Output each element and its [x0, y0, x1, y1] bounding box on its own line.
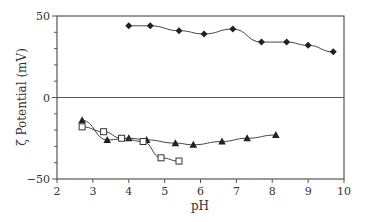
- data-point: [101, 129, 107, 135]
- data-point: [119, 135, 125, 141]
- data-point: [140, 139, 146, 145]
- data-point: [305, 42, 312, 49]
- data-point: [175, 27, 182, 34]
- data-series: [78, 22, 336, 164]
- y-tick-label: 0: [43, 92, 50, 105]
- x-tick-label: 3: [89, 185, 96, 198]
- series-square-open: [79, 124, 182, 164]
- y-tick-label: 50: [36, 10, 50, 23]
- y-axis-label: ζ Potential (mV): [15, 48, 29, 146]
- x-tick-label: 4: [125, 185, 132, 198]
- x-tick-label: 5: [161, 185, 168, 198]
- data-point: [158, 155, 164, 161]
- data-point: [176, 158, 182, 164]
- series-diamond-filled: [125, 22, 336, 55]
- data-point: [258, 39, 265, 46]
- zeta-potential-chart: 2345678910500−50 pH ζ Potential (mV): [0, 0, 367, 222]
- x-tick-label: 7: [233, 185, 240, 198]
- series-triangle-filled: [78, 116, 279, 147]
- x-tick-label: 6: [197, 185, 204, 198]
- x-axis-label: pH: [191, 199, 209, 213]
- plot-axes: 2345678910500−50: [27, 10, 351, 198]
- x-tick-label: 10: [337, 185, 351, 198]
- data-point: [229, 26, 236, 33]
- x-tick-label: 9: [305, 185, 312, 198]
- x-tick-label: 8: [269, 185, 276, 198]
- data-point: [79, 124, 85, 130]
- data-point: [78, 116, 86, 123]
- data-point: [201, 30, 208, 37]
- data-point: [272, 131, 280, 138]
- x-tick-label: 2: [54, 185, 61, 198]
- data-point: [125, 134, 133, 141]
- data-point: [147, 22, 154, 29]
- data-point: [330, 48, 337, 55]
- data-point: [125, 22, 132, 29]
- y-tick-label: −50: [27, 173, 50, 186]
- data-point: [283, 39, 290, 46]
